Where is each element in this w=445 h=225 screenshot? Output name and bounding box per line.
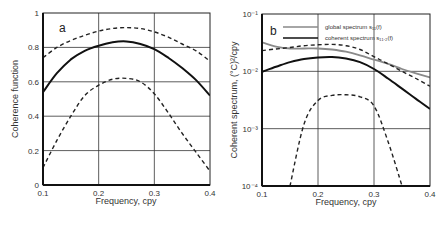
panel-b-ylabel: Coherent spectrum, (°C)²/cpy [229, 41, 239, 159]
panel-b-xlabel: Frequency, cpy [316, 197, 377, 207]
panel-a-frame [43, 13, 210, 185]
series-line [43, 41, 210, 95]
series-line [43, 28, 210, 62]
y-tick-label: 10⁻¹ [242, 10, 258, 19]
y-tick-label: 10⁻² [242, 67, 258, 76]
figure: 0.10.20.30.400.20.40.60.81 a Frequency, … [0, 0, 445, 225]
panel-a-grid [43, 13, 210, 185]
y-tick-label: 0.6 [28, 78, 40, 87]
x-tick-label: 0.1 [37, 189, 49, 198]
panel-a-letter: a [59, 21, 66, 35]
panel-a-ticks: 0.10.20.30.400.20.40.60.81 [28, 9, 216, 198]
y-tick-label: 1 [35, 9, 40, 18]
panel-a-curves [43, 28, 210, 172]
panel-b: 0.10.20.30.410⁻⁴10⁻³10⁻²10⁻¹ b global sp… [229, 10, 436, 207]
series-line [43, 78, 210, 171]
y-tick-label: 0 [35, 181, 40, 190]
panel-a-xlabel: Frequency, cpy [96, 196, 157, 206]
panel-b-letter: b [270, 24, 277, 38]
y-tick-label: 10⁻³ [242, 125, 258, 134]
panel-a: 0.10.20.30.400.20.40.60.81 a Frequency, … [10, 9, 216, 206]
panel-a-ylabel: Coherence function [10, 60, 20, 138]
y-tick-label: 10⁻⁴ [242, 182, 259, 191]
panel-b-legend: global spectrum s₁₁(f) coherent spectrum… [283, 24, 393, 41]
y-tick-label: 0.4 [28, 112, 40, 121]
y-tick-label: 0.2 [28, 147, 40, 156]
legend-coherent-label: coherent spectrum s₁₁.₂(f) [325, 35, 393, 41]
x-tick-label: 0.4 [424, 190, 436, 199]
panel-b-curves [262, 42, 430, 186]
series-line [290, 95, 402, 186]
series-line [262, 57, 430, 109]
series-line [262, 44, 430, 86]
x-tick-label: 0.4 [204, 189, 216, 198]
y-tick-label: 0.8 [28, 43, 40, 52]
x-tick-label: 0.1 [256, 190, 268, 199]
legend-global-label: global spectrum s₁₁(f) [325, 24, 382, 30]
